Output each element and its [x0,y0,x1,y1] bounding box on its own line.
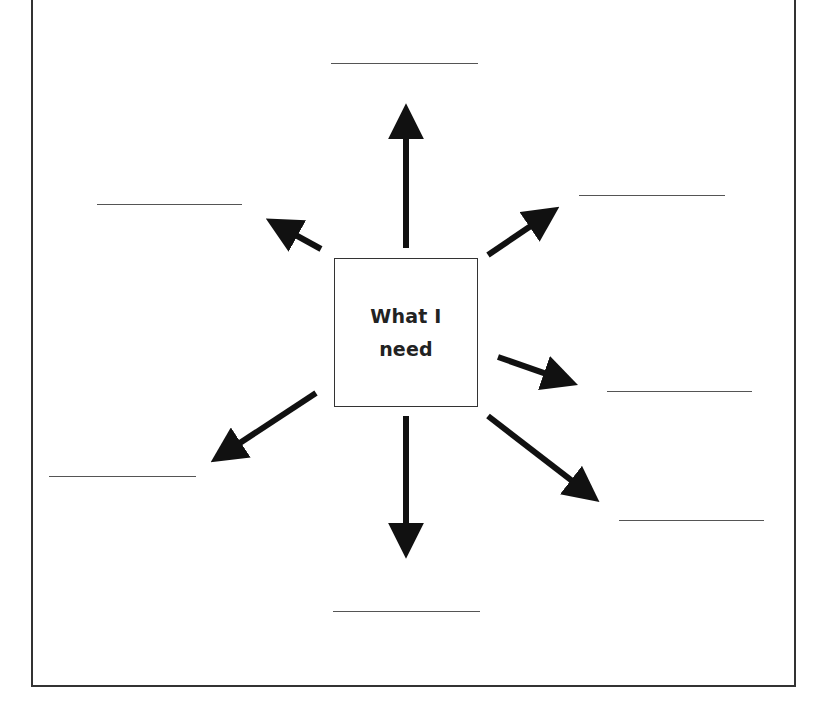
answer-line-upper-right[interactable] [579,195,725,196]
arrow-right-icon [498,357,568,381]
arrow-up-left-icon [275,224,321,249]
center-label-line1: What I [370,300,441,333]
arrow-down-left-icon [220,393,316,456]
center-label-line2: need [379,333,433,366]
center-concept-box: What I need [334,258,478,407]
answer-line-lower-left[interactable] [49,476,196,477]
answer-line-lower-right[interactable] [619,520,764,521]
answer-line-upper-left[interactable] [97,204,242,205]
arrow-up-right-icon [488,213,550,255]
arrow-down-right-icon [488,416,591,495]
answer-line-bottom[interactable] [333,611,480,612]
answer-line-top[interactable] [331,63,478,64]
answer-line-right[interactable] [607,391,752,392]
